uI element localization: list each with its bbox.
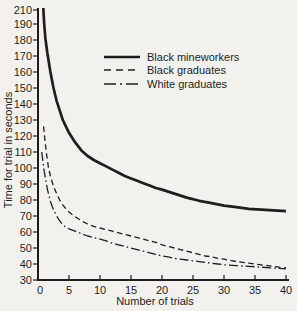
y-tick-label: 140 xyxy=(14,98,32,110)
y-tick-label: 210 xyxy=(14,4,32,16)
y-tick-label: 170 xyxy=(14,50,32,62)
y-tick-label: 190 xyxy=(14,18,32,30)
dashed-line-swatch-icon xyxy=(103,66,141,74)
curve-black-mineworkers xyxy=(43,8,286,211)
y-tick-label: 130 xyxy=(14,114,32,126)
legend-label: White graduates xyxy=(147,78,227,90)
x-tick-label: 10 xyxy=(94,284,106,296)
chart-figure: 2101901801701601501401301201101009080706… xyxy=(0,0,297,311)
x-tick-label: 30 xyxy=(218,284,230,296)
y-tick-label: 60 xyxy=(20,226,32,238)
legend-item-black-mineworkers: Black mineworkers xyxy=(103,50,239,64)
y-tick-label: 160 xyxy=(14,66,32,78)
y-tick-label: 110 xyxy=(14,146,32,158)
x-tick-label: 5 xyxy=(66,284,72,296)
x-tick-label: 40 xyxy=(280,284,292,296)
legend-label: Black mineworkers xyxy=(147,51,239,63)
dashdot-line-swatch-icon xyxy=(103,80,141,88)
x-axis-title: Number of trials xyxy=(116,295,194,307)
x-tick-label: 35 xyxy=(249,284,261,296)
y-tick-label: 50 xyxy=(20,242,32,254)
y-tick-label: 80 xyxy=(20,194,32,206)
legend-item-white-graduates: White graduates xyxy=(103,77,239,91)
solid-line-swatch-icon xyxy=(103,53,141,61)
y-tick-label: 180 xyxy=(14,34,32,46)
legend-item-black-graduates: Black graduates xyxy=(103,64,239,78)
y-tick-label: 150 xyxy=(14,82,32,94)
y-tick-label: 90 xyxy=(20,178,32,190)
legend: Black mineworkers Black graduates White … xyxy=(103,50,239,91)
y-tick-label: 70 xyxy=(20,210,32,222)
legend-label: Black graduates xyxy=(147,64,226,76)
y-tick-label: 120 xyxy=(14,130,32,142)
x-tick-label: 0 xyxy=(37,284,43,296)
y-tick-label: 40 xyxy=(20,258,32,270)
curve-white-graduates xyxy=(42,152,286,269)
y-axis-title: Time for trial in seconds xyxy=(2,92,14,208)
y-tick-label: 100 xyxy=(14,162,32,174)
plot-svg: 2101901801701601501401301201101009080706… xyxy=(0,0,297,311)
y-tick-label: 30 xyxy=(20,274,32,286)
